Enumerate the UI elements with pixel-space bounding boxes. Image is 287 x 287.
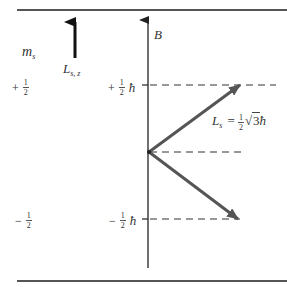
ms-num: 1 [23, 78, 29, 88]
hbar-symbol: ħ [129, 80, 136, 95]
ms-sign: − [15, 214, 22, 228]
ms-value-plus-half: +12 [12, 78, 30, 97]
value-num: 1 [119, 78, 125, 88]
ms-den: 2 [26, 221, 32, 230]
ms-den: 2 [23, 88, 29, 97]
b-axis-label: B [154, 28, 162, 41]
value-fraction: 12 [120, 211, 126, 230]
ms-value-minus-half: −12 [15, 211, 33, 230]
ls-sub: s [219, 121, 222, 130]
value-sign: + [108, 81, 115, 95]
radicand: 3 [252, 112, 260, 128]
ms-sign: + [12, 81, 19, 95]
value-fraction: 12 [119, 78, 125, 97]
hbar-symbol: ħ [130, 213, 137, 228]
value-sign: − [109, 214, 116, 228]
coef-num: 1 [238, 113, 244, 123]
ms-subscript: s [32, 52, 35, 61]
ms-column-header: ms [22, 45, 35, 61]
b-axis-label-text: B [154, 27, 162, 42]
value-den: 2 [120, 221, 126, 230]
origin-point [147, 150, 151, 154]
coef-den: 2 [238, 123, 244, 132]
ms-symbol: m [22, 44, 32, 59]
lsz-label: Ls, z [63, 62, 80, 78]
equals-sign: = [228, 113, 235, 128]
value-den: 2 [119, 88, 125, 97]
magnitude-formula: Ls =12√3ħ [212, 113, 266, 132]
value-num: 1 [120, 211, 126, 221]
ms-fraction: 12 [26, 211, 32, 230]
spin-vector-diagram: ms Ls, z B +12 −12 +12ħ −12ħ Ls =12√3ħ [0, 0, 287, 287]
hbar-symbol: ħ [260, 113, 267, 128]
ms-fraction: 12 [23, 78, 29, 97]
ms-num: 1 [26, 211, 32, 221]
lsz-value-plus-half-hbar: +12ħ [108, 78, 135, 97]
coef-fraction: 12 [238, 113, 244, 132]
diagram-canvas [0, 0, 287, 287]
lsz-value-minus-half-hbar: −12ħ [109, 211, 136, 230]
spin-down-vector [149, 152, 238, 219]
lsz-sub: s, z [70, 69, 80, 78]
